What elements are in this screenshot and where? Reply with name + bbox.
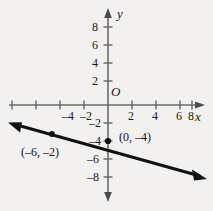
y-axis-label: y <box>117 7 123 20</box>
x-tick-label-2: 2 <box>128 110 134 122</box>
x-axis-arrow-right <box>195 101 205 108</box>
y-tick-label-2: 2 <box>92 75 98 87</box>
point-label-minus6-minus2: (–6, –2) <box>21 146 59 158</box>
x-axis-label: x <box>195 110 201 123</box>
y-tick-label-neg4: –4 <box>89 135 101 147</box>
coordinate-plane-svg <box>0 0 213 211</box>
data-point-0-minus4 <box>105 138 111 144</box>
y-tick-label-4: 4 <box>92 57 98 69</box>
origin-label: O <box>111 85 120 98</box>
y-axis-arrow-up <box>104 8 112 18</box>
plotted-line-arrow-left <box>8 122 22 132</box>
y-tick-label-neg8: –8 <box>87 171 99 183</box>
y-tick-label-6: 6 <box>92 39 98 51</box>
plotted-line-arrow-right <box>192 170 207 181</box>
y-tick-label-neg2: –2 <box>89 117 101 129</box>
data-point-minus6-minus2 <box>49 131 55 137</box>
x-tick-label-8: 8 <box>188 110 194 122</box>
x-tick-label-neg4: –4 <box>62 110 74 122</box>
y-tick-label-neg6: –6 <box>87 153 99 165</box>
graph-figure: y x O –4 –2 2 4 6 8 8 6 4 2 –2 –4 –6 –8 … <box>0 0 213 211</box>
point-label-0-minus4: (0, –4) <box>119 131 151 143</box>
y-tick-label-8: 8 <box>92 21 98 33</box>
x-tick-label-6: 6 <box>176 110 182 122</box>
x-tick-label-4: 4 <box>152 110 158 122</box>
y-axis-arrow-down <box>104 192 112 202</box>
